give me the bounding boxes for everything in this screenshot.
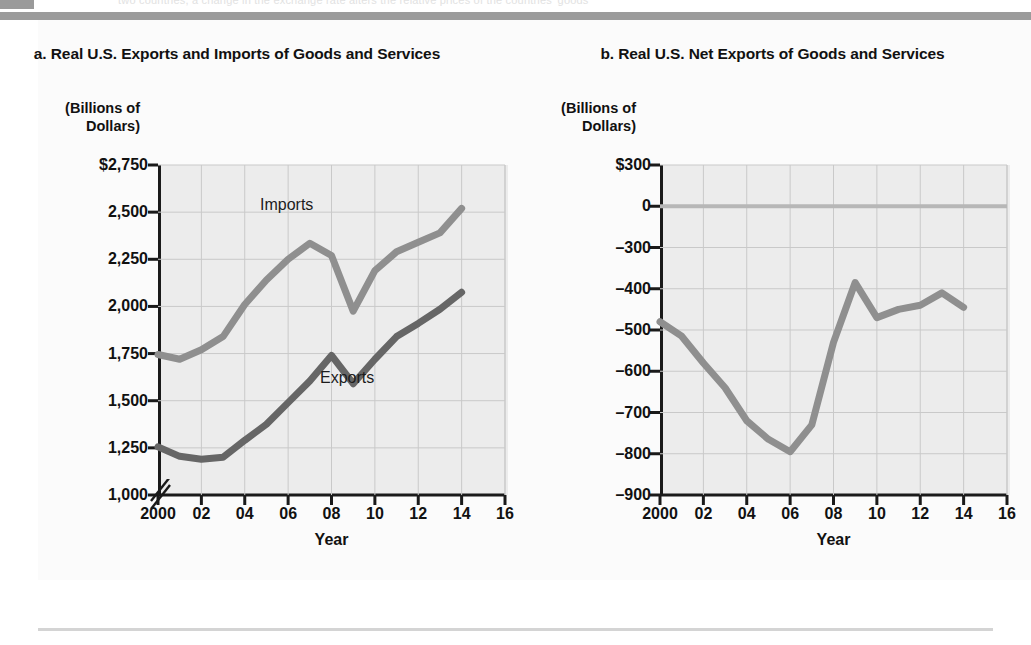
y-tick-label: 2,250 (108, 251, 148, 267)
chart-a-imports-series-label: Imports (260, 196, 313, 214)
x-tick-label: 10 (366, 505, 384, 523)
y-tick-label: 2,000 (108, 298, 148, 314)
y-tick-label: 0 (642, 198, 651, 214)
y-tick-label: 1,250 (108, 440, 148, 456)
chart-a-x-axis-title: Year (158, 531, 505, 549)
chart-b-plot-svg (660, 165, 1007, 495)
chart-a-title: a. Real U.S. Exports and Imports of Good… (0, 44, 502, 63)
chart-b-x-tick-labels: 20000204060810121416 (660, 505, 1007, 525)
x-tick-label: 02 (192, 505, 210, 523)
x-tick-label: 16 (998, 505, 1016, 523)
x-tick-label: 06 (279, 505, 297, 523)
x-tick-label: 12 (409, 505, 427, 523)
x-tick-label: 2000 (642, 505, 678, 523)
y-tick-label: $300 (615, 157, 651, 173)
y-tick-label: 1,000 (108, 487, 148, 503)
x-tick-label: 14 (955, 505, 973, 523)
x-tick-label: 04 (236, 505, 254, 523)
x-tick-label: 10 (868, 505, 886, 523)
y-tick-label: –900 (615, 487, 651, 503)
y-tick-label: –400 (615, 281, 651, 297)
x-tick-label: 06 (781, 505, 799, 523)
x-tick-label: 14 (453, 505, 471, 523)
y-tick-label: 1,750 (108, 346, 148, 362)
x-tick-label: 16 (496, 505, 514, 523)
figure-root: two countries, a change in the exchange … (0, 0, 1031, 645)
y-tick-label: 2,500 (108, 204, 148, 220)
chart-a-axis-break-icon (148, 479, 174, 513)
chart-a-plot-area (158, 165, 505, 495)
chart-b-axis-unit-label: (Billions of Dollars) (534, 99, 636, 135)
y-tick-label: $2,750 (99, 157, 148, 173)
chart-b-title: b. Real U.S. Net Exports of Goods and Se… (522, 44, 1023, 63)
x-tick-label: 12 (911, 505, 929, 523)
y-tick-label: 1,500 (108, 393, 148, 409)
y-tick-label: –600 (615, 363, 651, 379)
bottom-divider-rule (38, 628, 993, 631)
y-tick-label: –500 (615, 322, 651, 338)
chart-a-exports-series-label: Exports (320, 369, 374, 387)
chart-a-plot-svg (158, 165, 505, 495)
y-tick-label: –300 (615, 240, 651, 256)
y-tick-label: –800 (615, 446, 651, 462)
chart-a-axis-unit-label: (Billions of Dollars) (38, 99, 140, 135)
chart-b-plot-area (660, 165, 1007, 495)
chart-a-x-tick-labels: 20000204060810121416 (158, 505, 505, 525)
x-tick-label: 04 (738, 505, 756, 523)
x-tick-label: 02 (694, 505, 712, 523)
x-tick-label: 08 (825, 505, 843, 523)
x-tick-label: 08 (323, 505, 341, 523)
chart-b-x-axis-title: Year (660, 531, 1007, 549)
y-tick-label: –700 (615, 405, 651, 421)
